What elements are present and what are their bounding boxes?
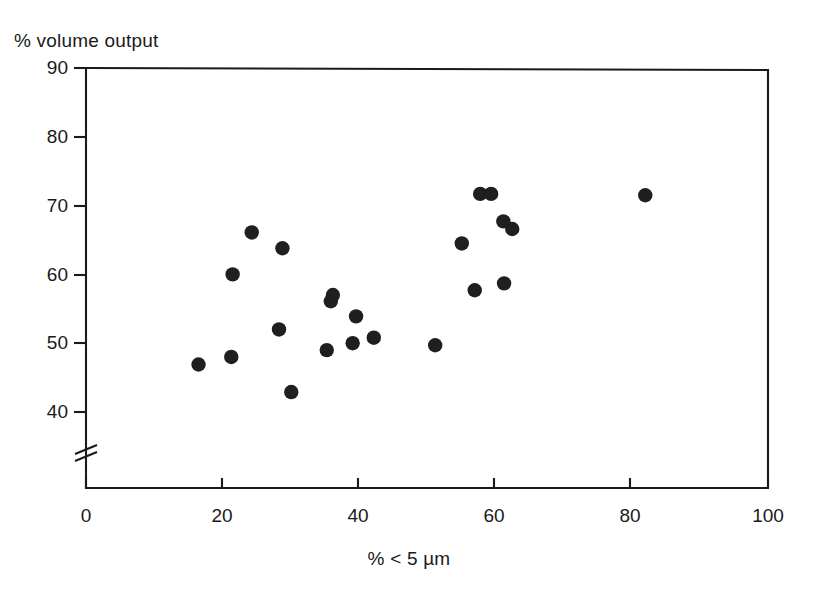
data-point bbox=[272, 322, 286, 336]
data-point bbox=[245, 225, 259, 239]
data-point bbox=[428, 338, 442, 352]
data-point bbox=[349, 309, 363, 323]
data-point bbox=[638, 188, 652, 202]
top-spine bbox=[86, 68, 768, 70]
data-point bbox=[505, 222, 519, 236]
scatter-chart-figure: % volume output % < 5 µm 90 80 70 60 50 … bbox=[0, 0, 818, 607]
data-point bbox=[367, 331, 381, 345]
data-point bbox=[497, 276, 511, 290]
y-tick-marks bbox=[74, 68, 86, 412]
data-point bbox=[284, 385, 298, 399]
data-point bbox=[345, 336, 359, 350]
data-point bbox=[224, 350, 238, 364]
data-point bbox=[191, 357, 205, 371]
plot-area bbox=[0, 0, 818, 607]
data-point bbox=[326, 288, 340, 302]
data-points-layer bbox=[191, 187, 652, 400]
data-point bbox=[225, 267, 239, 281]
data-point bbox=[455, 236, 469, 250]
data-point bbox=[484, 187, 498, 201]
axis-frame bbox=[86, 68, 768, 488]
x-tick-marks bbox=[86, 478, 768, 488]
data-point bbox=[320, 343, 334, 357]
data-point bbox=[468, 283, 482, 297]
data-point bbox=[275, 241, 289, 255]
